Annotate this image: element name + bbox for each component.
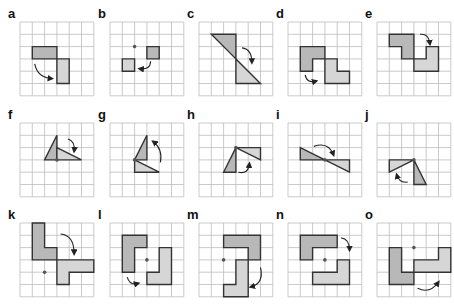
rotated-image-shape — [122, 59, 134, 71]
rotated-image-shape — [57, 59, 69, 84]
grid-diagram — [377, 123, 453, 199]
center-of-rotation-dot — [43, 270, 47, 274]
rotation-arrow-icon — [238, 164, 249, 173]
rotation-arrow-icon — [140, 61, 151, 69]
grid-diagram — [288, 223, 364, 299]
center-of-rotation-dot — [222, 258, 226, 262]
grid-diagram — [110, 123, 186, 199]
panel-label: d — [276, 7, 284, 20]
panel-label: a — [8, 7, 15, 20]
panel-label: l — [98, 208, 102, 221]
center-of-rotation-dot — [234, 146, 238, 150]
rotated-image-shape — [325, 59, 350, 84]
rotated-image-shape — [57, 260, 94, 285]
center-of-rotation-dot — [412, 246, 416, 250]
grid-diagram — [288, 22, 364, 98]
rotation-arrow-icon — [305, 75, 316, 82]
panel-label: g — [98, 108, 106, 121]
original-shape — [32, 47, 57, 59]
panel-label: e — [365, 7, 372, 20]
grid-diagram — [20, 223, 96, 299]
rotated-image-shape — [414, 248, 451, 273]
rotation-arrow-icon — [251, 267, 262, 287]
rotation-arrow-icon — [242, 48, 252, 63]
center-of-rotation-dot — [133, 158, 137, 162]
rotation-arrow-icon — [153, 141, 161, 162]
panel-label: b — [98, 7, 106, 20]
grid-diagram — [199, 22, 275, 98]
grid-diagram — [288, 123, 364, 199]
center-of-rotation-dot — [323, 158, 327, 162]
panel-label: k — [8, 208, 15, 221]
grid-diagram — [20, 22, 96, 98]
grid-diagram — [199, 223, 275, 299]
grid-diagram — [110, 223, 186, 299]
original-shape — [389, 34, 414, 59]
center-of-rotation-dot — [412, 158, 416, 162]
panel-label: f — [8, 108, 12, 121]
grid-diagram — [20, 123, 96, 199]
original-shape — [389, 248, 414, 285]
center-of-rotation-dot — [55, 158, 59, 162]
rotated-image-shape — [414, 47, 439, 72]
grid-diagram — [110, 22, 186, 98]
original-shape — [32, 223, 57, 260]
center-of-rotation-dot — [145, 258, 149, 262]
panel-label: i — [276, 108, 280, 121]
panel-label: m — [187, 208, 199, 221]
rotation-arrow-icon — [127, 277, 138, 284]
original-shape — [300, 235, 337, 260]
rotation-arrow-icon — [397, 175, 408, 183]
original-shape — [300, 47, 325, 72]
panel-label: c — [187, 7, 194, 20]
center-of-rotation-dot — [133, 45, 137, 49]
center-of-rotation-dot — [323, 258, 327, 262]
panel-label: h — [187, 108, 195, 121]
rotated-image-shape — [313, 260, 350, 285]
rotation-arrow-icon — [314, 145, 334, 155]
original-shape — [147, 47, 159, 59]
grid-diagram — [199, 123, 275, 199]
rotated-image-shape — [147, 248, 172, 285]
panel-label: n — [276, 208, 284, 221]
rotation-arrow-icon — [61, 234, 75, 254]
grid-diagram — [377, 22, 453, 98]
rotated-image-shape — [224, 260, 249, 297]
original-shape — [122, 235, 147, 272]
rotation-arrow-icon — [420, 34, 430, 44]
rotation-arrow-icon — [418, 282, 439, 290]
rotation-arrow-icon — [341, 238, 350, 250]
grid-diagram — [377, 223, 453, 299]
panel-label: o — [365, 208, 373, 221]
original-shape — [224, 235, 261, 260]
panel-label: j — [365, 108, 369, 121]
